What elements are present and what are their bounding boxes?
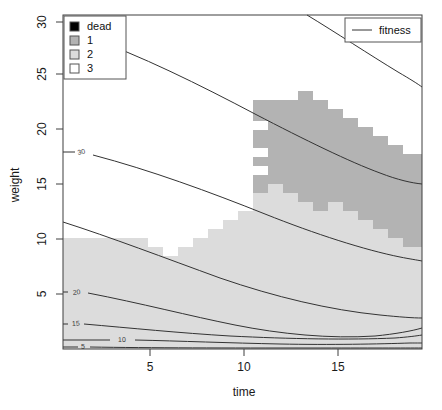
legend-swatch-3[interactable] bbox=[70, 64, 79, 73]
x-tick-label-15: 15 bbox=[331, 360, 345, 374]
y-tick-label-10: 10 bbox=[35, 232, 49, 246]
legend-swatch-1[interactable] bbox=[70, 36, 79, 45]
y-axis-ticks bbox=[56, 22, 63, 294]
x-axis-ticks bbox=[150, 349, 338, 356]
y-axis-title: weight bbox=[8, 167, 22, 203]
x-tick-label-5: 5 bbox=[147, 360, 154, 374]
x-axis-title: time bbox=[233, 385, 256, 399]
chart-root: 30 20 15 10 5 5 10 15 20 25 30 weight 5 bbox=[0, 0, 442, 410]
legend-swatch-2[interactable] bbox=[70, 50, 79, 59]
y-tick-label-5: 5 bbox=[35, 290, 49, 297]
x-tick-label-10: 10 bbox=[237, 360, 251, 374]
policy-contour-plot: 30 20 15 10 5 5 10 15 20 25 30 weight 5 bbox=[0, 0, 442, 410]
legend-categories[interactable]: dead 1 2 3 bbox=[64, 16, 126, 79]
legend-label-dead: dead bbox=[87, 20, 111, 32]
y-tick-label-25: 25 bbox=[35, 67, 49, 81]
y-tick-label-15: 15 bbox=[35, 177, 49, 191]
y-tick-label-30: 30 bbox=[35, 15, 49, 29]
contour-label-15: 15 bbox=[72, 320, 80, 327]
legend-label-1: 1 bbox=[87, 34, 93, 46]
legend-swatch-dead[interactable] bbox=[70, 22, 79, 31]
legend-label-2: 2 bbox=[87, 48, 93, 60]
legend-fitness[interactable]: fitness bbox=[345, 18, 421, 42]
legend-label-fitness: fitness bbox=[379, 24, 411, 36]
legend-label-3: 3 bbox=[87, 62, 93, 74]
y-tick-label-20: 20 bbox=[35, 122, 49, 136]
contour-label-10: 10 bbox=[118, 336, 126, 343]
contour-label-20: 20 bbox=[72, 288, 81, 296]
